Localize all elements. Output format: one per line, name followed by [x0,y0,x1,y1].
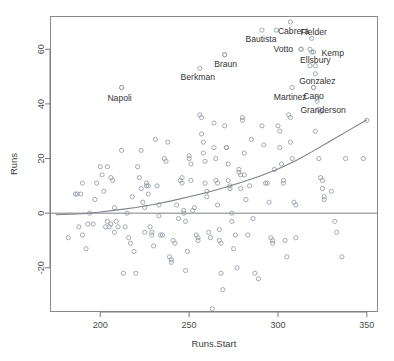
data-point [335,230,339,234]
data-point-labeled [288,20,292,24]
point-label-votto: Votto [273,44,293,54]
data-point [139,186,143,190]
data-point-labeled [260,28,264,32]
data-point [235,266,239,270]
data-point [290,156,294,160]
y-tick-label: 40 [36,99,46,109]
data-point [119,148,123,152]
data-point [121,271,125,275]
point-label-cano: Cano [303,91,324,101]
data-point [98,165,102,169]
x-tick-label: 200 [93,320,108,330]
data-point [151,244,155,248]
data-point [322,197,326,201]
data-point [210,307,214,311]
data-point [185,249,189,253]
data-point [239,186,243,190]
data-point [267,200,271,204]
data-point [333,219,337,223]
y-tick-label: 0 [36,211,46,216]
data-point [219,271,223,275]
data-point [230,219,234,223]
data-point [205,195,209,199]
data-point [150,233,154,237]
data-point [361,156,365,160]
data-point [86,222,90,226]
data-point [260,124,264,128]
data-point [153,137,157,141]
x-tick-label: 250 [182,320,197,330]
data-point [114,219,118,223]
data-point [226,178,230,182]
data-point [84,247,88,251]
data-point-labeled [223,53,227,57]
data-point [256,277,260,281]
data-point [253,271,257,275]
data-point [187,156,191,160]
data-point [201,140,205,144]
data-point [278,146,282,150]
data-point [116,225,120,229]
x-tick-label: 300 [270,320,285,330]
data-point [281,181,285,185]
data-point [233,233,237,237]
data-point [105,165,109,169]
point-label-martinez: Martinez [274,92,307,102]
data-point [148,225,152,229]
data-point-labeled [119,85,123,89]
point-label-granderson: Granderson [300,105,346,115]
data-point [221,288,225,292]
data-point [112,206,116,210]
data-point [240,118,244,122]
y-tick-label: -20 [36,261,46,274]
data-point [201,151,205,155]
data-point [80,233,84,237]
data-point [215,203,219,207]
y-axis: -200204060 [36,44,50,274]
data-point [132,249,136,253]
data-point [329,189,333,193]
point-label-berkman: Berkman [181,72,216,82]
y-axis-title: Runs [8,153,19,175]
point-label-ellsbury: Ellsbury [300,55,331,65]
data-point [203,181,207,185]
data-point [294,236,298,240]
data-point [320,186,324,190]
data-point [100,173,104,177]
data-point [208,236,212,240]
data-point [279,162,283,166]
data-point [166,140,170,144]
data-point [95,181,99,185]
data-point [317,156,321,160]
data-point [139,148,143,152]
data-point [189,162,193,166]
data-point [135,165,139,169]
data-point [244,197,248,201]
data-point [242,151,246,155]
data-point [128,241,132,245]
data-point [212,121,216,125]
chart-canvas: NapoliBerkmanBraunBautistaCabreraVottoFi… [0,0,394,361]
data-point [130,195,134,199]
data-point [231,247,235,251]
data-point [313,129,317,133]
data-point [175,203,179,207]
data-point [134,271,138,275]
data-point [143,230,147,234]
data-point [262,143,266,147]
data-point [217,227,221,231]
data-point [212,146,216,150]
data-point [247,184,251,188]
data-point [91,222,95,226]
data-point [228,186,232,190]
data-point [214,156,218,160]
data-point [249,137,253,141]
data-point [226,162,230,166]
point-label-bautista: Bautista [245,34,276,44]
data-point [283,238,287,242]
data-point [340,255,344,259]
data-point [127,236,131,240]
data-point [137,176,141,180]
point-label-fielder: Fielder [301,27,327,37]
data-point [102,189,106,193]
